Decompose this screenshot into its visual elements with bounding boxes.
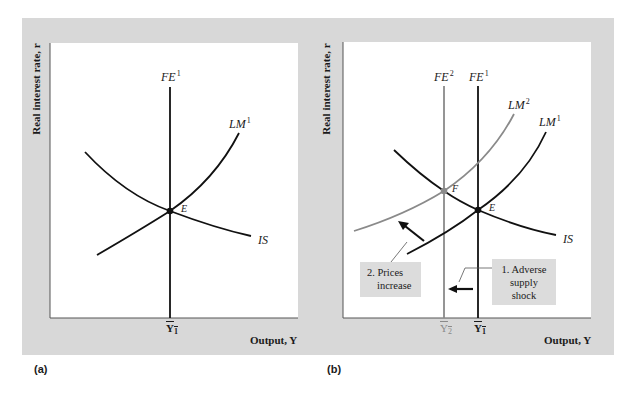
panel-b-point-f (441, 188, 448, 195)
lm-shift-arrow (398, 221, 424, 241)
panel-a-point-e (167, 208, 174, 215)
panel-b-fe2-label: FE2 (434, 69, 454, 85)
panel-b-is-label: IS (563, 232, 573, 247)
note-line: supply (492, 276, 556, 289)
fe2-name: FE (434, 70, 449, 84)
panel-b-point-f-label: F (452, 183, 458, 194)
tick-base: Y (440, 322, 448, 334)
fe1-name: FE (161, 70, 176, 84)
tick-sub: 2 (448, 327, 452, 336)
panel-b-y-axis-label: Real interest rate, r (320, 39, 332, 139)
panel-b-lm1-curve (407, 132, 546, 254)
panel-b-label: (b) (327, 363, 341, 375)
figure: Real interest rate, r FE1 LM1 IS E Y1 Ou… (0, 0, 633, 396)
tick-sub: 1 (174, 327, 178, 336)
panel-b-tick-y2: Y2 (440, 322, 452, 336)
note-line: shock (492, 289, 556, 302)
tick-base: Y (166, 322, 174, 334)
panel-a-y-axis-label: Real interest rate, r (30, 39, 42, 139)
lm2-sup: 2 (526, 97, 530, 106)
panel-b-fe1-label: FE1 (469, 69, 489, 85)
fe2-sup: 2 (450, 69, 454, 78)
panel-b-lm2-label: LM2 (508, 97, 530, 113)
panel-a-x-axis-label: Output, Y (250, 334, 297, 346)
panel-a-point-e-label: E (181, 203, 187, 214)
lm2-name: LM (508, 98, 525, 112)
prices-note-leader (391, 242, 407, 262)
fe1-sup: 1 (485, 69, 489, 78)
note-line: increase (360, 279, 421, 292)
panel-b-is-curve (394, 150, 556, 235)
chart-graphics (0, 0, 633, 396)
panel-a-lm1-curve (97, 133, 239, 255)
fe1-sup: 1 (177, 69, 181, 78)
panel-b-point-e-label: E (489, 202, 495, 213)
panel-a-label: (a) (34, 363, 47, 375)
panel-b-point-e (475, 207, 482, 214)
panel-a-fe1-label: FE1 (161, 69, 181, 85)
shock-note-leader (459, 268, 492, 282)
panel-a-is-label: IS (258, 233, 268, 248)
panel-a-is-curve (85, 152, 251, 236)
panel-b-x-axis-label: Output, Y (544, 334, 591, 346)
panel-a-lm1-label: LM1 (229, 116, 251, 132)
lm1-name: LM (539, 115, 556, 129)
lm1-name: LM (229, 117, 246, 131)
note-line: 1. Adverse (492, 259, 556, 276)
tick-base: Y (474, 322, 482, 334)
panel-b-tick-y1: Y1 (474, 322, 486, 336)
panel-b-lm2-curve (354, 114, 514, 231)
prices-increase-note: 2. Prices increase (360, 262, 421, 297)
note-line: 2. Prices (360, 262, 421, 279)
fe1-name: FE (469, 70, 484, 84)
adverse-supply-shock-note: 1. Adverse supply shock (492, 259, 556, 305)
fe-shift-arrow (448, 285, 473, 293)
lm1-sup: 1 (247, 116, 251, 125)
panel-b-lm1-label: LM1 (539, 114, 561, 130)
tick-sub: 1 (482, 327, 486, 336)
lm1-sup: 1 (557, 114, 561, 123)
panel-a-tick-y1: Y1 (166, 322, 178, 336)
